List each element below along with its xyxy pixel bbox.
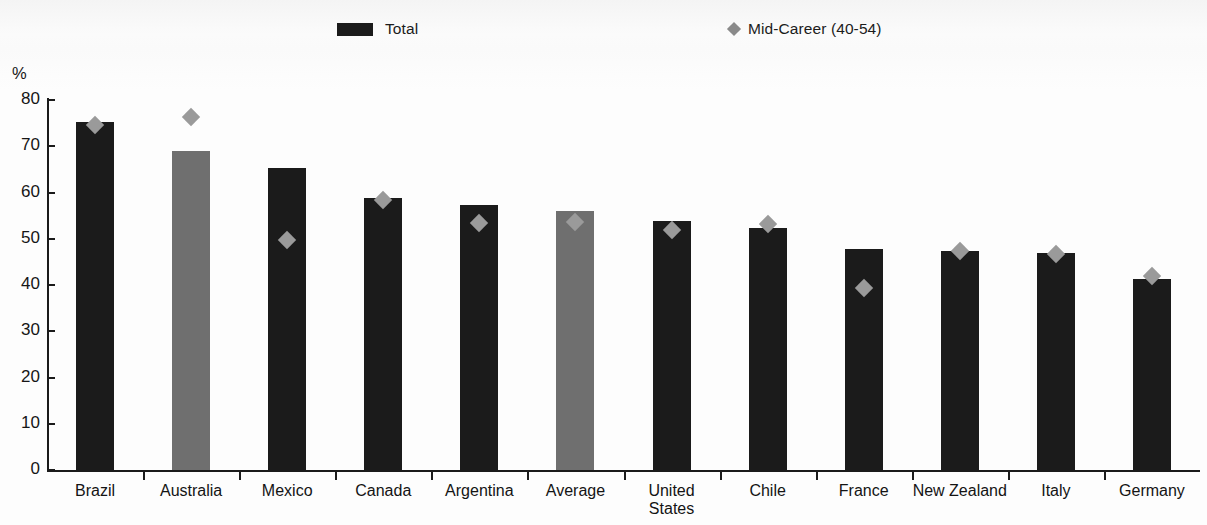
x-axis-tick: [143, 472, 145, 480]
bar-canada: [364, 198, 402, 470]
x-axis-category-label: France: [816, 482, 912, 500]
chart-legend: Total Mid-Career (40-54): [0, 16, 1207, 46]
x-axis-tick: [1008, 472, 1010, 480]
x-axis-tick: [239, 472, 241, 480]
legend-label-mid-career: Mid-Career (40-54): [748, 20, 882, 38]
x-axis-category-label: Germany: [1104, 482, 1200, 500]
x-axis-tick: [720, 472, 722, 480]
chart-page: Total Mid-Career (40-54) % 8070605040302…: [0, 0, 1207, 525]
y-axis-tick-label: 0: [6, 459, 40, 479]
legend-square-swatch-icon: [337, 23, 373, 36]
x-axis-category-label: New Zealand: [912, 482, 1008, 500]
x-axis-tick: [912, 472, 914, 480]
marker-australia: [182, 108, 200, 126]
bar-average: [556, 211, 594, 470]
x-axis-category-label: Average: [527, 482, 623, 500]
bar-new-zealand: [941, 251, 979, 470]
x-axis-tick: [816, 472, 818, 480]
y-axis-tick: [47, 469, 55, 471]
x-axis-tick: [624, 472, 626, 480]
y-axis-tick-labels: 80706050403020100: [0, 0, 40, 525]
x-axis-category-label: Canada: [335, 482, 431, 500]
x-axis-category-label: Australia: [143, 482, 239, 500]
bar-mexico: [268, 168, 306, 470]
x-axis-tick: [431, 472, 433, 480]
x-axis-category-label: Mexico: [239, 482, 335, 500]
y-axis-tick-label: 80: [6, 89, 40, 109]
legend-label-total: Total: [385, 20, 418, 38]
bar-chile: [749, 228, 787, 470]
y-axis-tick: [47, 284, 55, 286]
y-axis-tick: [47, 192, 55, 194]
x-axis-category-label: United States: [624, 482, 720, 518]
x-axis-category-label: Argentina: [431, 482, 527, 500]
y-axis-tick-label: 30: [6, 320, 40, 340]
x-axis-tick: [335, 472, 337, 480]
x-axis-category-label: Italy: [1008, 482, 1104, 500]
legend-item-total: Total: [337, 18, 418, 40]
y-axis-tick: [47, 330, 55, 332]
bar-australia: [172, 151, 210, 470]
y-axis-tick-label: 70: [6, 135, 40, 155]
x-axis-tick: [1104, 472, 1106, 480]
y-axis-tick: [47, 238, 55, 240]
y-axis-tick-label: 40: [6, 274, 40, 294]
bar-argentina: [460, 205, 498, 470]
bar-germany: [1133, 279, 1171, 470]
legend-diamond-marker-icon: [727, 22, 741, 36]
legend-item-mid-career: Mid-Career (40-54): [727, 18, 882, 40]
x-axis-category-label: Brazil: [47, 482, 143, 500]
y-axis-tick-label: 60: [6, 182, 40, 202]
y-axis-tick: [47, 423, 55, 425]
plot-area: [47, 100, 1200, 470]
x-axis-tick: [527, 472, 529, 480]
bar-united-states: [653, 221, 691, 470]
y-axis-tick: [47, 99, 55, 101]
bar-brazil: [76, 122, 114, 470]
x-axis-category-label: Chile: [720, 482, 816, 500]
y-axis-tick-label: 50: [6, 228, 40, 248]
y-axis-tick-label: 10: [6, 413, 40, 433]
bar-italy: [1037, 253, 1075, 470]
y-axis-tick: [47, 145, 55, 147]
y-axis-tick: [47, 377, 55, 379]
y-axis-tick-label: 20: [6, 367, 40, 387]
